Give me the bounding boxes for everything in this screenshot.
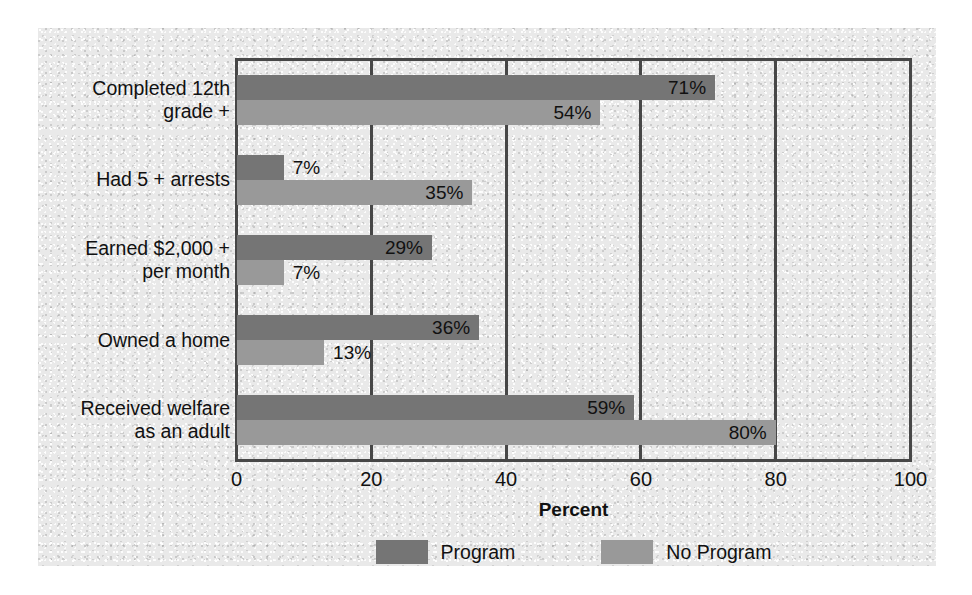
category-label: Earned $2,000 +per month bbox=[0, 237, 230, 283]
category-label: Completed 12thgrade + bbox=[0, 77, 230, 123]
x-tick-60: 60 bbox=[630, 468, 652, 491]
category-label-line: Owned a home bbox=[0, 329, 230, 352]
legend-label-program: Program bbox=[441, 541, 516, 564]
category-label-line: grade + bbox=[0, 100, 230, 123]
category-label-line: per month bbox=[0, 260, 230, 283]
legend-label-no-program: No Program bbox=[666, 541, 771, 564]
chart-legend: Program No Program bbox=[235, 540, 912, 564]
bar-value-label: 71% bbox=[668, 75, 715, 100]
bar-program bbox=[237, 155, 284, 180]
bar-value-label: 7% bbox=[284, 155, 320, 180]
category-label-line: Completed 12th bbox=[0, 77, 230, 100]
x-tick-0: 0 bbox=[231, 468, 242, 491]
bar-no-program bbox=[237, 260, 284, 285]
legend-swatch-no-program-icon bbox=[601, 540, 653, 564]
bar-value-label: 29% bbox=[385, 235, 432, 260]
chart-figure: 71%54%7%35%29%7%36%13%59%80% Completed 1… bbox=[38, 28, 936, 566]
bar-value-label: 59% bbox=[587, 395, 634, 420]
bar-program bbox=[237, 75, 716, 100]
x-tick-80: 80 bbox=[765, 468, 787, 491]
category-label: Owned a home bbox=[0, 329, 230, 352]
category-label-line: Earned $2,000 + bbox=[0, 237, 230, 260]
bar-value-label: 36% bbox=[432, 315, 479, 340]
bar-program bbox=[237, 395, 635, 420]
x-axis-title: Percent bbox=[235, 499, 912, 521]
x-tick-40: 40 bbox=[495, 468, 517, 491]
x-tick-20: 20 bbox=[360, 468, 382, 491]
legend-item-program: Program bbox=[376, 540, 516, 564]
bar-no-program bbox=[237, 340, 325, 365]
category-label-line: as an adult bbox=[0, 420, 230, 443]
bar-value-label: 13% bbox=[324, 340, 371, 365]
category-label: Received welfareas an adult bbox=[0, 397, 230, 443]
bar-value-label: 35% bbox=[425, 180, 472, 205]
bar-value-label: 7% bbox=[284, 260, 320, 285]
bar-no-program bbox=[237, 100, 601, 125]
category-label-line: Had 5 + arrests bbox=[0, 168, 230, 191]
category-label: Had 5 + arrests bbox=[0, 168, 230, 191]
bar-no-program bbox=[237, 420, 776, 445]
legend-item-no-program: No Program bbox=[601, 540, 771, 564]
bar-value-label: 54% bbox=[553, 100, 600, 125]
x-tick-100: 100 bbox=[894, 468, 927, 491]
category-label-line: Received welfare bbox=[0, 397, 230, 420]
legend-swatch-program-icon bbox=[376, 540, 428, 564]
bar-value-label: 80% bbox=[729, 420, 776, 445]
